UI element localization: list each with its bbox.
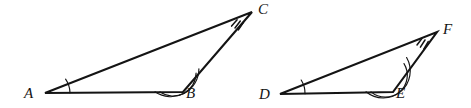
triangle-def-group bbox=[280, 32, 437, 98]
vertex-label-d: D bbox=[259, 87, 270, 102]
geometry-figure: A B C D E F bbox=[0, 0, 471, 108]
triangle-abc-group bbox=[45, 12, 252, 97]
vertex-label-e: E bbox=[396, 86, 405, 101]
angle-marking-d-arc bbox=[301, 80, 305, 94]
triangle-abc-outline bbox=[45, 12, 252, 93]
angle-marking-a-arc bbox=[66, 79, 70, 93]
vertex-label-a: A bbox=[24, 86, 33, 101]
vertex-label-f: F bbox=[443, 22, 452, 37]
vertex-label-b: B bbox=[186, 86, 195, 101]
angle-marking-f-tick-2 bbox=[420, 40, 425, 47]
vertex-label-c: C bbox=[258, 2, 268, 17]
